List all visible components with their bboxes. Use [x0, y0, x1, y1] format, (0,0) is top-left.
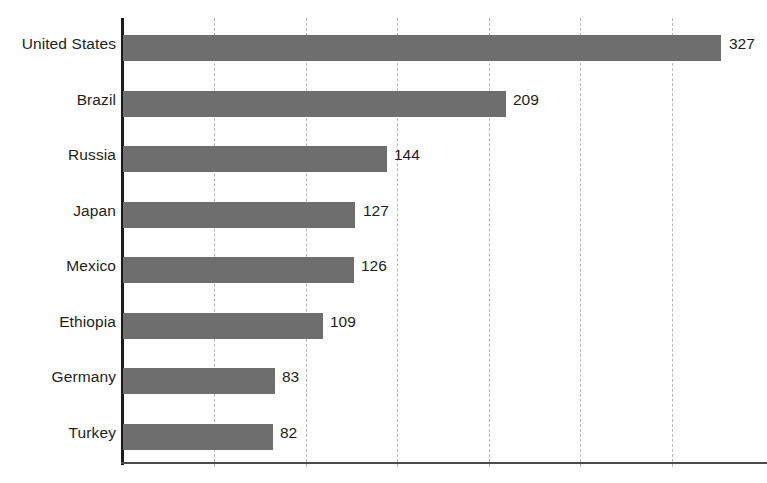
bar-value-turkey: 82 — [280, 424, 297, 442]
bar-value-japan: 127 — [363, 202, 389, 220]
bar-united-states — [123, 35, 721, 61]
bar-value-ethiopia: 109 — [330, 313, 356, 331]
bar-value-brazil: 209 — [513, 91, 539, 109]
chart-row: Brazil 209 — [0, 76, 767, 132]
bar-mexico — [123, 257, 354, 283]
chart-row: Russia 144 — [0, 131, 767, 187]
bar-value-mexico: 126 — [361, 257, 387, 275]
bar-chart: United States 327 Brazil 209 Russia 144 … — [0, 0, 767, 483]
chart-row: Germany 83 — [0, 353, 767, 409]
bar-value-germany: 83 — [282, 368, 299, 386]
bar-value-united-states: 327 — [729, 35, 755, 53]
category-label-japan: Japan — [0, 202, 116, 220]
chart-row: Turkey 82 — [0, 409, 767, 465]
chart-row: Japan 127 — [0, 187, 767, 243]
category-label-turkey: Turkey — [0, 424, 116, 442]
bar-japan — [123, 202, 355, 228]
category-label-brazil: Brazil — [0, 91, 116, 109]
bar-russia — [123, 146, 387, 172]
category-label-germany: Germany — [0, 368, 116, 386]
category-label-mexico: Mexico — [0, 257, 116, 275]
bar-value-russia: 144 — [394, 146, 420, 164]
chart-row: Mexico 126 — [0, 242, 767, 298]
bar-turkey — [123, 424, 273, 450]
chart-row: Ethiopia 109 — [0, 298, 767, 354]
bar-brazil — [123, 91, 506, 117]
category-label-ethiopia: Ethiopia — [0, 313, 116, 331]
category-label-united-states: United States — [0, 35, 116, 53]
bar-ethiopia — [123, 313, 323, 339]
category-label-russia: Russia — [0, 146, 116, 164]
chart-row: United States 327 — [0, 20, 767, 76]
bar-germany — [123, 368, 275, 394]
